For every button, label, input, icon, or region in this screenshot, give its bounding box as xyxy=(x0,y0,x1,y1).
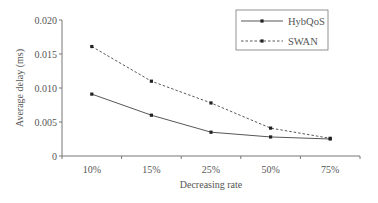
data-point-marker xyxy=(90,93,93,96)
y-tick-label: 0.005 xyxy=(35,117,58,128)
y-tick-label: 0.015 xyxy=(35,49,58,60)
line-chart: 00.0050.0100.0150.02010%15%25%50%75%Decr… xyxy=(0,0,378,203)
data-point-marker xyxy=(150,114,153,117)
legend-marker xyxy=(260,39,263,42)
legend-label-swan: SWAN xyxy=(288,36,318,47)
data-point-marker xyxy=(150,80,153,83)
y-tick-label: 0.010 xyxy=(35,83,58,94)
data-point-marker xyxy=(329,137,332,140)
data-point-marker xyxy=(209,101,212,104)
legend-label-hybqos: HybQoS xyxy=(288,16,325,27)
x-tick-label: 10% xyxy=(83,164,101,175)
x-tick-label: 75% xyxy=(321,164,339,175)
legend: HybQoSSWAN xyxy=(236,10,328,50)
data-point-marker xyxy=(90,45,93,48)
x-tick-label: 25% xyxy=(202,164,220,175)
data-point-marker xyxy=(269,135,272,138)
y-axis-label: Average delay (ms) xyxy=(14,49,26,127)
x-axis-label: Decreasing rate xyxy=(180,179,243,190)
data-point-marker xyxy=(209,131,212,134)
series-lines xyxy=(90,45,332,141)
x-tick-label: 15% xyxy=(142,164,160,175)
y-tick-label: 0 xyxy=(52,151,57,162)
data-point-marker xyxy=(269,127,272,130)
y-tick-label: 0.020 xyxy=(35,15,58,26)
legend-marker xyxy=(260,19,263,22)
x-tick-label: 50% xyxy=(261,164,279,175)
series-line-swan xyxy=(92,47,330,139)
